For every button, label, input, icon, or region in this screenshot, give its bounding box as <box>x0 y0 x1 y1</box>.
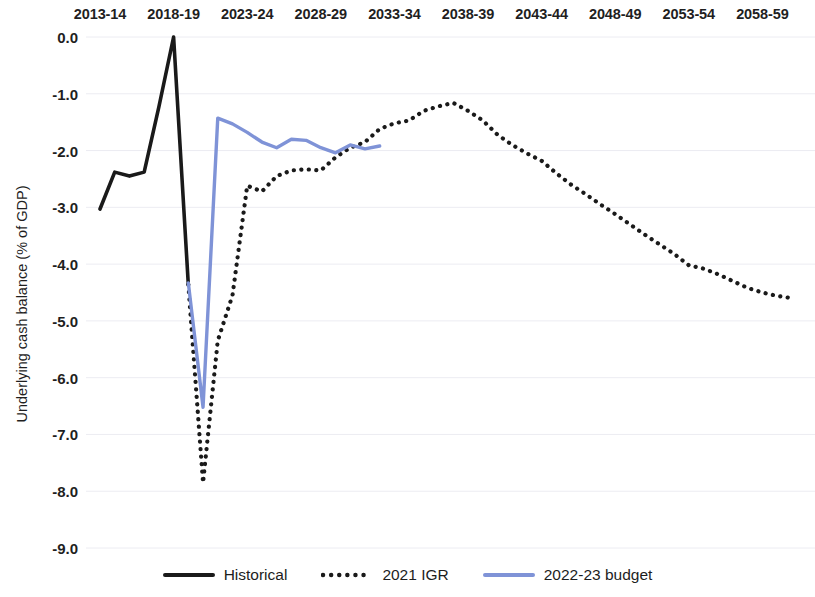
legend-label: 2021 IGR <box>382 566 448 584</box>
x-axis-tick-label: 2013-14 <box>74 6 127 22</box>
x-axis-tick-label: 2018-19 <box>147 6 200 22</box>
series-line <box>188 118 379 407</box>
plot-area <box>86 28 815 560</box>
series-line <box>188 103 792 483</box>
y-axis-tick-label: 0.0 <box>57 29 78 46</box>
series-line <box>100 37 188 285</box>
y-axis-tick-label: -5.0 <box>52 312 78 329</box>
chart-svg <box>86 28 815 560</box>
y-axis-tick-label: -2.0 <box>52 142 78 159</box>
legend-item[interactable]: 2021 IGR <box>321 566 448 584</box>
x-axis-tick-label: 2053-54 <box>663 6 716 22</box>
y-axis-tick-label: -7.0 <box>52 426 78 443</box>
legend-label: Historical <box>224 566 288 584</box>
chart-container: 2013-142018-192023-242028-292033-342038-… <box>0 0 815 597</box>
y-axis-tick-label: -9.0 <box>52 540 78 557</box>
legend-item[interactable]: 2022-23 budget <box>483 566 653 584</box>
y-axis-tick-label: -8.0 <box>52 483 78 500</box>
solid-line-swatch <box>483 568 535 582</box>
dotted-line-swatch <box>321 568 373 582</box>
y-axis-tick-label: -4.0 <box>52 256 78 273</box>
legend-label: 2022-23 budget <box>544 566 653 584</box>
x-axis-tick-label: 2058-59 <box>736 6 789 22</box>
y-axis-tick-labels: 0.0-1.0-2.0-3.0-4.0-5.0-6.0-7.0-8.0-9.0 <box>0 0 78 597</box>
legend-item[interactable]: Historical <box>163 566 288 584</box>
y-axis-tick-label: -6.0 <box>52 369 78 386</box>
gridlines <box>86 37 815 548</box>
x-axis-tick-label: 2043-44 <box>515 6 568 22</box>
x-axis-tick-label: 2023-24 <box>221 6 274 22</box>
y-axis-title: Underlying cash balance (% of GDP) <box>14 24 30 584</box>
y-axis-tick-label: -3.0 <box>52 199 78 216</box>
chart-legend: Historical2021 IGR2022-23 budget <box>0 566 815 584</box>
x-axis-tick-label: 2048-49 <box>589 6 642 22</box>
data-series-layer <box>100 37 792 483</box>
x-axis-tick-label: 2038-39 <box>442 6 495 22</box>
solid-line-swatch <box>163 568 215 582</box>
y-axis-tick-label: -1.0 <box>52 85 78 102</box>
x-axis-tick-label: 2028-29 <box>295 6 348 22</box>
x-axis-tick-label: 2033-34 <box>368 6 421 22</box>
